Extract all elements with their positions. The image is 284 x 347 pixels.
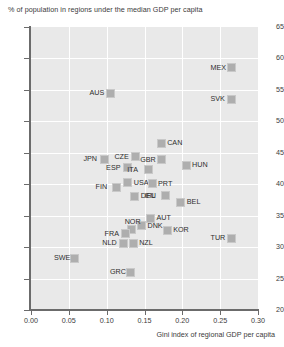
data-point-marker-hun[interactable] bbox=[182, 161, 191, 170]
data-point-label-esp: ESP bbox=[106, 163, 120, 172]
y-tick-mark bbox=[24, 153, 29, 154]
x-axis-title: Gini index of regional GDP per capita bbox=[156, 330, 275, 339]
data-point-marker-grc[interactable] bbox=[126, 268, 135, 277]
y-tick-label: 50 bbox=[260, 116, 284, 125]
data-point-label-grc: GRC bbox=[110, 267, 126, 276]
data-point-marker-swe[interactable] bbox=[70, 254, 79, 263]
data-point-marker-fin[interactable] bbox=[112, 183, 121, 192]
data-point-label-svk: SVK bbox=[211, 94, 225, 103]
data-point-marker-prt[interactable] bbox=[148, 179, 157, 188]
data-point-label-dnk: DNK bbox=[147, 221, 162, 230]
data-point-label-aus: AUS bbox=[89, 88, 104, 97]
x-tick-label: 0.25 bbox=[200, 316, 240, 325]
data-point-marker-cze[interactable] bbox=[131, 152, 140, 161]
data-point-marker-tur[interactable] bbox=[227, 234, 236, 243]
x-tick-mark bbox=[182, 310, 183, 315]
gridline-vertical bbox=[69, 27, 70, 310]
data-point-marker-fra[interactable] bbox=[121, 229, 130, 238]
data-point-marker-svk[interactable] bbox=[227, 95, 236, 104]
y-axis-line bbox=[29, 26, 31, 311]
y-tick-label: 45 bbox=[260, 148, 284, 157]
x-tick-label: 0.15 bbox=[125, 316, 165, 325]
x-tick-label: 0.20 bbox=[162, 316, 202, 325]
x-tick-mark bbox=[145, 310, 146, 315]
data-point-label-prt: PRT bbox=[158, 179, 172, 188]
data-point-label-jpn: JPN bbox=[83, 154, 97, 163]
y-tick-label: 30 bbox=[260, 242, 284, 251]
data-point-label-gbr: GBR bbox=[140, 155, 156, 164]
data-point-marker-can[interactable] bbox=[157, 139, 166, 148]
data-point-label-deu: DEU bbox=[141, 191, 156, 200]
data-point-label-nld: NLD bbox=[102, 238, 116, 247]
x-tick-label: 0.30 bbox=[238, 316, 278, 325]
y-tick-label: 55 bbox=[260, 85, 284, 94]
y-tick-mark bbox=[24, 121, 29, 122]
data-point-marker-deu[interactable] bbox=[130, 192, 139, 201]
x-tick-mark bbox=[258, 310, 259, 315]
data-point-marker-nld[interactable] bbox=[119, 239, 128, 248]
y-tick-label: 60 bbox=[260, 53, 284, 62]
x-tick-mark bbox=[220, 310, 221, 315]
y-tick-mark bbox=[24, 58, 29, 59]
data-point-marker-nzl[interactable] bbox=[129, 239, 138, 248]
y-tick-mark bbox=[24, 279, 29, 280]
x-tick-mark bbox=[69, 310, 70, 315]
data-point-marker-bel[interactable] bbox=[176, 198, 185, 207]
y-tick-mark bbox=[24, 310, 29, 311]
data-point-label-ita: ITA bbox=[127, 165, 138, 174]
y-tick-mark bbox=[24, 216, 29, 217]
y-tick-label: 40 bbox=[260, 179, 284, 188]
chart-figure: % of population in regions under the med… bbox=[0, 0, 284, 347]
chart-title: % of population in regions under the med… bbox=[8, 5, 203, 14]
y-tick-label: 35 bbox=[260, 211, 284, 220]
y-tick-mark bbox=[24, 247, 29, 248]
data-point-label-can: CAN bbox=[167, 138, 182, 147]
data-point-label-nor: NOR bbox=[125, 217, 141, 226]
data-point-marker-ita[interactable] bbox=[144, 165, 153, 174]
x-tick-label: 0.00 bbox=[11, 316, 51, 325]
data-point-marker-aus[interactable] bbox=[106, 89, 115, 98]
data-point-label-mex: MEX bbox=[211, 63, 227, 72]
x-tick-mark bbox=[107, 310, 108, 315]
data-point-label-nzl: NZL bbox=[139, 238, 153, 247]
y-tick-mark bbox=[24, 184, 29, 185]
y-tick-label: 20 bbox=[260, 305, 284, 314]
data-point-label-hun: HUN bbox=[192, 160, 208, 169]
y-tick-label: 65 bbox=[260, 22, 284, 31]
data-point-label-fin: FIN bbox=[96, 182, 108, 191]
data-point-label-kor: KOR bbox=[173, 225, 189, 234]
data-point-label-cze: CZE bbox=[114, 152, 128, 161]
data-point-label-bel: BEL bbox=[187, 197, 201, 206]
data-point-marker-usa[interactable] bbox=[123, 178, 132, 187]
y-tick-mark bbox=[24, 90, 29, 91]
data-point-marker-irl[interactable] bbox=[161, 191, 170, 200]
data-point-label-fra: FRA bbox=[105, 229, 119, 238]
x-tick-label: 0.05 bbox=[49, 316, 89, 325]
y-tick-mark bbox=[24, 27, 29, 28]
data-point-label-swe: SWE bbox=[54, 253, 70, 262]
y-tick-label: 25 bbox=[260, 274, 284, 283]
x-tick-label: 0.10 bbox=[87, 316, 127, 325]
data-point-marker-kor[interactable] bbox=[163, 226, 172, 235]
data-point-marker-gbr[interactable] bbox=[157, 155, 166, 164]
x-tick-mark bbox=[31, 310, 32, 315]
data-point-label-usa: USA bbox=[134, 178, 149, 187]
data-point-label-tur: TUR bbox=[211, 233, 226, 242]
data-point-marker-mex[interactable] bbox=[227, 63, 236, 72]
